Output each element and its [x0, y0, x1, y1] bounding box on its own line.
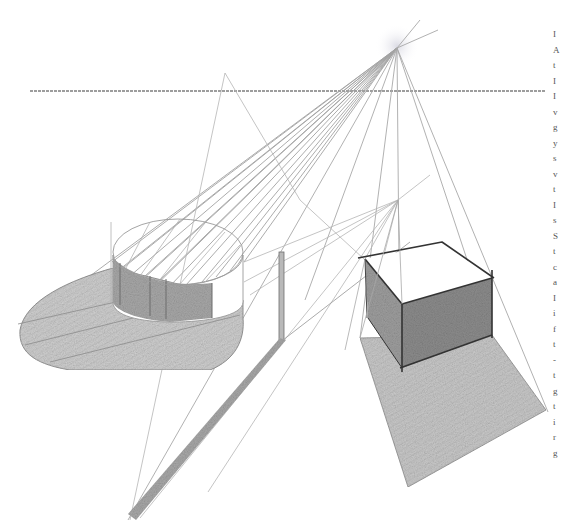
text-edge-glyph: c	[553, 263, 557, 272]
text-edge-glyph: I	[553, 77, 556, 86]
text-edge-glyph: I	[553, 201, 556, 210]
text-edge-glyph: S	[553, 232, 558, 241]
text-edge-glyph: s	[553, 154, 557, 163]
perspective-drawing	[0, 0, 565, 523]
text-edge-glyph: i	[553, 309, 556, 318]
text-edge-glyph: g	[553, 123, 558, 132]
text-edge-glyph: s	[553, 216, 557, 225]
text-edge-glyph: g	[553, 449, 558, 458]
text-edge-glyph: v	[553, 170, 558, 179]
text-edge-glyph: I	[553, 92, 556, 101]
cube-shadow-hatch	[360, 335, 546, 487]
text-edge-glyph: y	[553, 139, 558, 148]
text-edge-glyph: t	[553, 61, 556, 70]
text-edge-glyph: t	[553, 185, 556, 194]
pole	[279, 252, 284, 341]
cropped-text-column: IAtIIvgysvtIsStcaIift-tgtirg	[553, 30, 565, 470]
text-edge-glyph: I	[553, 294, 556, 303]
text-edge-glyph: i	[553, 418, 556, 427]
text-edge-glyph: -	[553, 356, 556, 365]
text-edge-glyph: a	[553, 278, 557, 287]
text-edge-glyph: t	[553, 402, 556, 411]
cylinder-top	[113, 219, 243, 285]
text-edge-glyph: r	[553, 433, 556, 442]
text-edge-glyph: v	[553, 108, 558, 117]
text-edge-glyph: I	[553, 30, 556, 39]
text-edge-glyph: t	[553, 247, 556, 256]
text-edge-glyph: t	[553, 340, 556, 349]
text-edge-glyph: A	[553, 46, 560, 55]
text-edge-glyph: t	[553, 371, 556, 380]
text-edge-glyph: f	[553, 325, 556, 334]
text-edge-glyph: g	[553, 387, 558, 396]
cylinder-side-shaded	[113, 258, 212, 322]
